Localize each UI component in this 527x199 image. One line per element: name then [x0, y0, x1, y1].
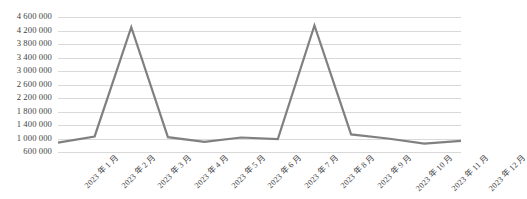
y-tick-label: 3 400 000 — [0, 53, 52, 62]
y-tick-label: 3 800 000 — [0, 39, 52, 48]
y-axis: 4 600 0004 200 0003 800 0003 400 0003 00… — [0, 0, 56, 199]
x-tick-label: 2023 年 4 月 — [193, 153, 230, 190]
x-tick-label: 2023 年 12 月 — [487, 153, 527, 193]
data-series — [58, 17, 461, 152]
y-tick-label: 4 200 000 — [0, 26, 52, 35]
x-tick-label: 2023 年 2 月 — [119, 153, 156, 190]
x-tick-label: 2023 年 3 月 — [156, 153, 193, 190]
x-tick-label: 2023 年 1 月 — [83, 153, 120, 190]
y-tick-label: 1 000 000 — [0, 134, 52, 143]
series-line-monthly — [58, 25, 461, 143]
y-tick-label: 600 000 — [0, 147, 52, 156]
x-tick-label: 2023 年 7 月 — [303, 153, 340, 190]
y-tick-label: 2 200 000 — [0, 93, 52, 102]
x-tick-label: 2023 年 8 月 — [339, 153, 376, 190]
y-tick-label: 4 600 000 — [0, 12, 52, 21]
plot-area — [58, 17, 461, 152]
y-tick-label: 3 000 000 — [0, 66, 52, 75]
y-tick-label: 1 400 000 — [0, 120, 52, 129]
x-tick-label: 2023 年 10 月 — [414, 153, 454, 193]
x-axis: 2023 年 1 月2023 年 2 月2023 年 3 月2023 年 4 月… — [58, 153, 461, 199]
x-tick-label: 2023 年 6 月 — [266, 153, 303, 190]
x-tick-label: 2023 年 9 月 — [376, 153, 413, 190]
x-tick-label: 2023 年 5 月 — [229, 153, 266, 190]
x-tick-label: 2023 年 11 月 — [450, 153, 490, 193]
y-tick-label: 1 800 000 — [0, 107, 52, 116]
y-tick-label: 2 600 000 — [0, 80, 52, 89]
